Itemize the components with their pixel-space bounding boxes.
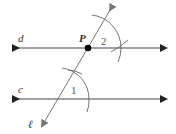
label-p: P (79, 32, 86, 44)
label-transversal: ℓ (28, 118, 33, 130)
transversal-l (42, 10, 110, 126)
point-p (85, 45, 92, 52)
label-c: c (18, 83, 23, 95)
label-angle-1: 1 (71, 84, 77, 96)
label-angle-2: 2 (101, 35, 107, 47)
arc-angle-2 (92, 15, 121, 62)
parallel-construction-diagram: d c P 2 1 ℓ (0, 0, 176, 134)
label-d: d (18, 32, 24, 44)
arc-mark-line-d (111, 40, 128, 52)
